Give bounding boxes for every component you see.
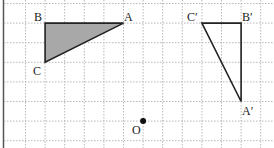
label-c: C [33,64,41,78]
label-b: B [34,10,42,24]
label-b-prime: B′ [242,10,253,24]
label-o: O [132,123,141,137]
label-c-prime: C′ [187,10,198,24]
label-a: A [124,10,133,24]
center-point-o [140,118,146,124]
label-a-prime: A′ [242,104,254,118]
triangle-abc [45,23,123,62]
rotation-diagram: B A C C′ B′ A′ O [0,0,274,148]
